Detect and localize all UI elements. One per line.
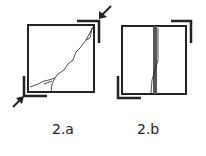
panel-square-2a	[28, 25, 94, 92]
arrow-top-right-icon	[99, 6, 111, 19]
figure-label-2a: 2.a	[52, 121, 74, 137]
figure-label-2b: 2.b	[137, 121, 159, 137]
arrow-bottom-left-icon	[13, 96, 24, 107]
corner-bracket-top-right-2b	[171, 21, 191, 43]
crack-band	[153, 26, 157, 94]
crack-line-main	[30, 27, 93, 87]
diagram-canvas	[0, 0, 206, 156]
crack-line-branch-left	[44, 81, 52, 84]
figure-2b	[118, 21, 191, 98]
figure-2a	[13, 6, 111, 107]
crack-line-branch-bottom	[51, 78, 55, 92]
